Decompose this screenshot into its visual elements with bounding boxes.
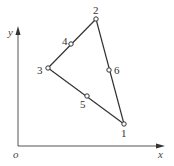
node-label-3: 3: [37, 64, 43, 76]
node-6-icon: [107, 68, 111, 72]
element-edges: [48, 19, 124, 124]
node-label-5: 5: [80, 98, 86, 110]
origin-label: o: [13, 148, 19, 160]
node-label-6: 6: [114, 64, 120, 76]
node-4-icon: [69, 42, 73, 46]
x-axis-label: x: [157, 148, 163, 160]
coordinate-axes: o x y: [7, 26, 165, 160]
y-axis-arrow-icon: [16, 26, 21, 35]
diagram-svg: o x y 1 2 3 4 5 6: [0, 0, 174, 166]
node-3-icon: [46, 66, 50, 70]
node-label-1: 1: [121, 127, 127, 139]
triangle-element-diagram: o x y 1 2 3 4 5 6: [0, 0, 174, 166]
node-labels: 1 2 3 4 5 6: [37, 4, 127, 139]
node-label-4: 4: [62, 35, 68, 47]
node-label-2: 2: [93, 4, 99, 16]
y-axis-label: y: [7, 26, 13, 38]
node-1-icon: [122, 122, 126, 126]
node-2-icon: [94, 17, 98, 21]
